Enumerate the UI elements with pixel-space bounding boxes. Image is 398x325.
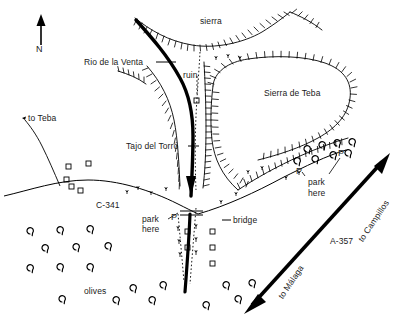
- park-here-left-line1: park: [142, 214, 159, 224]
- tajo-del-torro-label: Tajo del Torró: [126, 141, 178, 151]
- map-canvas: N sierra Sierra de Teba ruin Rio de la V…: [0, 0, 398, 325]
- rio-de-la-venta-label: Rio de la Venta: [84, 57, 143, 67]
- park-here-right-line2: here: [308, 188, 325, 198]
- sierra-label: sierra: [200, 16, 222, 26]
- map-artwork: [0, 0, 398, 325]
- road-to-teba: [22, 117, 60, 187]
- parking-marker-right-lower: P: [296, 166, 302, 176]
- gorge-east-wall: [203, 62, 206, 188]
- sierra-ridge-northeast: [290, 12, 322, 30]
- road-a357-label: A-357: [330, 236, 353, 246]
- parking-marker-left: P: [171, 212, 177, 222]
- bridge-label: bridge: [233, 215, 257, 225]
- to-teba-label: to Teba: [28, 113, 56, 123]
- sierra-de-teba-inner-tail: [211, 86, 238, 190]
- parking-marker-right-upper: P: [338, 148, 344, 158]
- park-here-left-line2: here: [142, 224, 159, 234]
- road-c341-label: C-341: [96, 200, 120, 210]
- sierra-de-teba-label: Sierra de Teba: [264, 88, 321, 98]
- olives-label: olives: [84, 286, 106, 296]
- sierra-southeast-band: [238, 138, 348, 190]
- river-bank-hachure-upper: [118, 71, 146, 84]
- leader-park-here-right-upper: [329, 158, 340, 174]
- north-arrow-icon: [37, 14, 46, 45]
- ruin-label: ruin: [183, 70, 198, 80]
- leader-park-here-right-lower: [302, 172, 305, 176]
- cliff-escarpment-lines: [118, 9, 357, 190]
- gorge-west-wall: [147, 66, 180, 186]
- north-label: N: [36, 44, 43, 54]
- park-here-right-line1: park: [308, 177, 325, 187]
- rio-de-la-venta-river: [136, 20, 196, 292]
